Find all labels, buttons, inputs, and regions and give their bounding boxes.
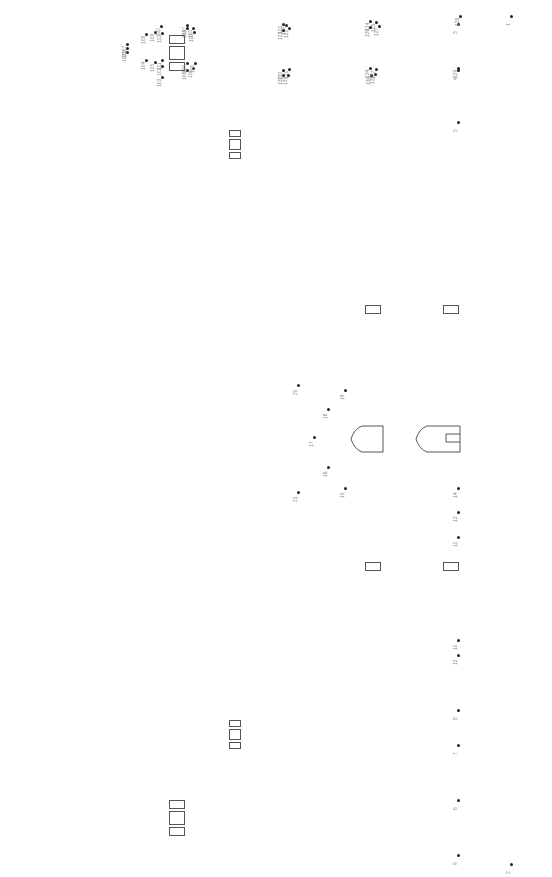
point-label-103: 103	[157, 79, 162, 87]
point-label-6: 6	[453, 807, 458, 810]
point-11	[457, 536, 460, 539]
point-label-104: 104	[141, 62, 146, 70]
point-label-129: 129	[453, 70, 458, 78]
point-label-133: 133	[283, 77, 288, 85]
point-19	[344, 389, 347, 392]
point-label-118: 118	[190, 65, 195, 73]
point-label-117: 117	[182, 27, 187, 35]
point-label-20: 20	[293, 389, 298, 395]
point-label-21: 21	[293, 496, 298, 502]
point-15	[344, 487, 347, 490]
point-21	[297, 491, 300, 494]
point-label-19: 19	[340, 394, 345, 400]
point-label-10: 10	[453, 644, 458, 650]
point-label-127: 127	[374, 28, 379, 36]
point-label-18: 18	[323, 413, 328, 419]
triple-rect-lower-mid-part-1	[229, 729, 241, 740]
point-label-11: 11	[453, 542, 458, 547]
point-label-16: 16	[323, 471, 328, 477]
point-label-3: 3	[453, 31, 458, 34]
triple-rect-upper-mid-part-2	[229, 152, 241, 159]
point-9	[457, 854, 460, 857]
point-label-105: 105	[150, 64, 155, 72]
triple-rect-bottom-left-part-0	[169, 800, 185, 809]
rect-b	[443, 305, 459, 314]
point-label-101: 101	[122, 54, 127, 62]
point-label-14: 14	[453, 492, 458, 498]
point-label-108: 108	[141, 36, 146, 44]
point-label-17: 17	[309, 441, 314, 447]
triple-rect-top-left-part-1	[169, 46, 185, 60]
point-14	[457, 487, 460, 490]
point-label-12: 12	[453, 659, 458, 665]
point-label-119: 119	[182, 65, 187, 73]
point-16	[327, 466, 330, 469]
point-20	[297, 384, 300, 387]
point-12	[457, 654, 460, 657]
point-label-7: 7	[453, 752, 458, 755]
rect-c	[365, 562, 381, 571]
triple-rect-upper-mid-part-0	[229, 130, 241, 137]
point-8	[457, 709, 460, 712]
point-5	[457, 121, 460, 124]
point-label-15: 15	[340, 492, 345, 498]
point-label-8: 8	[453, 717, 458, 720]
point-label-112: 112	[157, 35, 162, 43]
point-label-111: 111	[157, 62, 162, 70]
point-label-137: 137	[371, 71, 376, 79]
point-label-115: 115	[188, 30, 193, 38]
point-18	[327, 408, 330, 411]
point-label-123: 123	[278, 32, 283, 40]
point-label-126: 126	[365, 29, 370, 37]
point-label-128: 128	[455, 18, 460, 26]
point-label-107: 107	[122, 46, 127, 54]
point-label-13: 13	[453, 516, 458, 522]
point-label-5: 5	[453, 129, 458, 132]
point-17	[313, 436, 316, 439]
point-2	[510, 863, 513, 866]
point-label-2: 2	[506, 871, 511, 874]
triple-rect-bottom-left-part-2	[169, 827, 185, 836]
triple-rect-lower-mid-part-0	[229, 720, 241, 727]
point-7	[457, 744, 460, 747]
point-13	[457, 511, 460, 514]
point-1	[510, 15, 513, 18]
point-label-1: 1	[506, 23, 511, 26]
triple-rect-bottom-left-part-1	[169, 811, 185, 825]
shield-left-icon	[350, 425, 385, 453]
point-10	[457, 639, 460, 642]
point-label-9: 9	[453, 862, 458, 865]
rect-d	[443, 562, 459, 571]
shield-right-icon	[415, 425, 462, 453]
diagram-canvas: 1234567891011121314151617181920211001011…	[0, 0, 552, 877]
triple-rect-lower-mid-part-2	[229, 742, 241, 749]
point-6	[457, 799, 460, 802]
triple-rect-upper-mid-part-1	[229, 139, 241, 150]
rect-a	[365, 305, 381, 314]
